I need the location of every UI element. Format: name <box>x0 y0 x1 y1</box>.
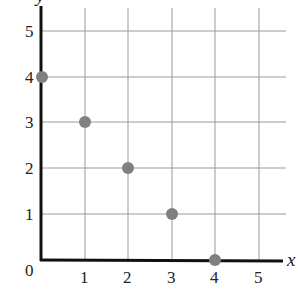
x-tick-1: 1 <box>80 268 89 287</box>
grid <box>41 8 286 260</box>
y-axis-label: y <box>34 0 45 6</box>
x-tick-4: 4 <box>210 268 219 287</box>
origin-label: 0 <box>25 261 34 280</box>
y-tick-5: 5 <box>25 22 34 41</box>
data-point <box>209 254 221 266</box>
x-tick-5: 5 <box>254 268 263 287</box>
x-axis-label: x <box>286 249 296 270</box>
scatter-chart: y 5 4 3 2 1 0 1 2 3 4 5 x <box>0 0 298 305</box>
y-tick-1: 1 <box>25 205 34 224</box>
data-point <box>166 208 178 220</box>
y-tick-2: 2 <box>25 159 34 178</box>
x-tick-2: 2 <box>123 268 132 287</box>
y-tick-4: 4 <box>25 68 34 87</box>
data-point <box>122 162 134 174</box>
data-point <box>79 116 91 128</box>
x-axis <box>40 260 283 261</box>
x-tick-3: 3 <box>167 268 176 287</box>
data-point <box>36 71 48 83</box>
y-tick-3: 3 <box>25 113 34 132</box>
